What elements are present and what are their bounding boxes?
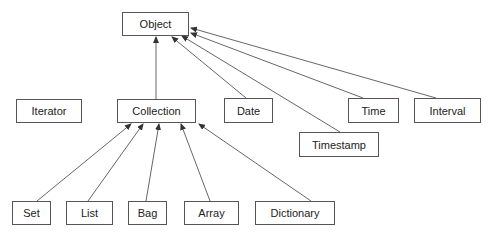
node-label: Date	[237, 105, 260, 117]
node-label: Bag	[138, 207, 158, 219]
node-array: Array	[184, 201, 239, 225]
node-label: Timestamp	[312, 139, 366, 151]
node-dictionary: Dictionary	[255, 201, 335, 225]
node-interval: Interval	[414, 98, 481, 123]
arrow-list-to-collection	[88, 124, 143, 201]
arrow-bag-to-collection	[146, 124, 159, 201]
node-label: Collection	[132, 105, 180, 117]
node-label: Interval	[429, 105, 465, 117]
arrow-interval-to-object	[191, 28, 436, 98]
class-hierarchy-diagram: Object Iterator Collection Date Time Int…	[0, 0, 493, 238]
node-label: Set	[23, 207, 40, 219]
node-bag: Bag	[128, 201, 167, 225]
node-collection: Collection	[117, 99, 196, 123]
node-label: Object	[140, 18, 172, 30]
node-object: Object	[122, 12, 189, 36]
node-list: List	[66, 201, 113, 225]
node-label: Iterator	[32, 105, 67, 117]
node-time: Time	[348, 98, 399, 123]
node-label: List	[81, 207, 98, 219]
arrow-date-to-object	[172, 37, 246, 98]
node-date: Date	[224, 98, 273, 123]
arrow-dictionary-to-collection	[199, 124, 311, 201]
node-timestamp: Timestamp	[299, 132, 379, 157]
node-iterator: Iterator	[16, 99, 82, 123]
arrow-set-to-collection	[37, 124, 131, 201]
node-label: Array	[198, 207, 224, 219]
arrow-array-to-collection	[181, 124, 210, 201]
node-label: Time	[361, 105, 385, 117]
node-label: Dictionary	[271, 207, 320, 219]
arrow-time-to-object	[191, 33, 363, 98]
node-set: Set	[12, 201, 51, 225]
